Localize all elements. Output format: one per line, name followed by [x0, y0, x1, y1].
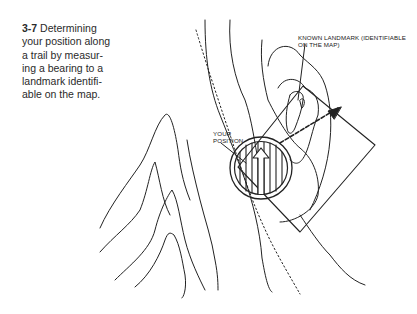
position-label-line2: POSITION — [213, 137, 243, 144]
contour-line — [135, 233, 186, 298]
contour-line — [100, 162, 170, 252]
contour-line — [268, 46, 331, 210]
orienting-arrow-icon — [253, 148, 269, 194]
contour-line — [286, 91, 303, 133]
position-label: YOUR POSITION — [213, 130, 243, 144]
trail-dotted-line — [196, 30, 300, 294]
landmark-label-line2: ON THE MAP) — [298, 41, 406, 48]
contour-line — [261, 40, 318, 222]
landmark-label-line1: KNOWN LANDMARK (IDENTIFIABLE — [298, 34, 406, 41]
landmark-label: KNOWN LANDMARK (IDENTIFIABLE ON THE MAP) — [298, 34, 406, 48]
contour-line — [115, 190, 205, 290]
contour-line — [100, 114, 190, 228]
position-label-line1: YOUR — [213, 130, 243, 137]
contour-line — [300, 215, 365, 285]
contour-line — [187, 140, 218, 290]
